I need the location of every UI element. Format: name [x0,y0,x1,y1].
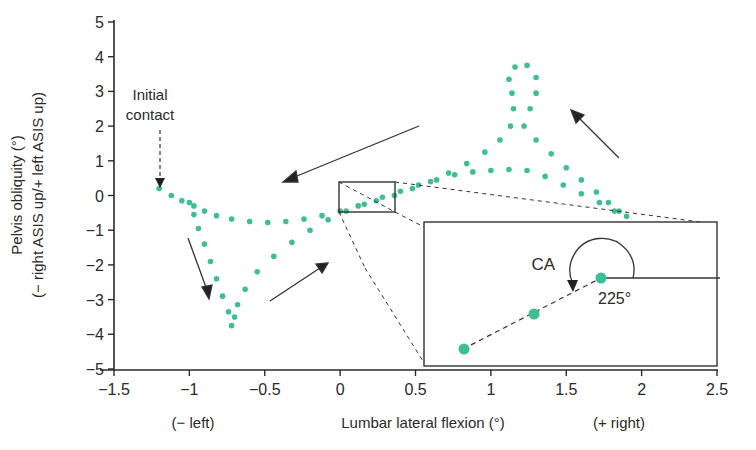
x-tick-label: −1.5 [98,381,130,398]
data-point [508,123,514,129]
x-tick-label: 1 [486,381,495,398]
x-tick-label: 1.5 [555,381,577,398]
y-tick-label: −5 [86,361,104,378]
data-point [355,203,361,209]
inset-label-ca: CA [531,255,555,274]
data-point [179,198,185,204]
data-point [470,169,476,175]
y-axis-label-line2: (− right ASIS up/+ left ASIS up) [29,92,46,298]
arrowhead-icon [283,171,298,182]
data-point [307,227,313,233]
data-point [232,314,238,320]
data-point [410,186,416,192]
data-point [361,201,367,207]
data-point [488,168,494,174]
data-point [594,189,600,195]
data-point [506,167,512,173]
data-point [548,151,554,157]
data-point [612,208,618,214]
x-tick-label: 0 [336,381,345,398]
data-point [343,208,349,214]
data-point [509,90,515,96]
arrowhead-icon [202,285,212,299]
y-tick-label: −2 [86,257,104,274]
data-point [319,213,325,219]
data-point [229,216,235,222]
data-point [202,208,208,214]
data-point [533,90,539,96]
x-tick-label: −1 [180,381,198,398]
chart-canvas: 543210−1−2−3−4−5 −1.5−1−0.500.511.522.5 … [0,0,756,450]
data-point [242,286,248,292]
annotation-initial-line1: Initial [132,86,167,103]
x-axis-label: Lumbar lateral flexion (°) [341,414,505,431]
data-point [560,182,566,188]
data-point [283,219,289,225]
data-point [191,203,197,209]
data-point [202,241,208,247]
data-point [524,168,530,174]
data-point [579,177,585,183]
arrowhead-icon [316,263,328,273]
data-point [214,213,220,219]
data-point [446,170,452,176]
inset-point [529,309,540,320]
inset-panel: CA 225° [424,222,720,366]
data-point [337,208,343,214]
inset-point [459,344,470,355]
y-tick-label: 0 [95,188,104,205]
x-axis-label-left: (− left) [172,414,215,431]
annotation-initial-line2: contact [126,106,175,123]
y-tick-label: 5 [95,14,104,31]
data-point [434,177,440,183]
data-point [533,137,539,143]
data-point [521,123,527,129]
data-point [428,179,434,185]
data-point [380,194,386,200]
data-point [265,220,271,226]
x-ticks: −1.5−1−0.500.511.522.5 [98,370,728,398]
data-point [542,174,548,180]
data-point [398,189,404,195]
y-tick-label: 1 [95,153,104,170]
inset-angle-label: 225° [598,290,631,307]
x-tick-label: −0.5 [249,381,281,398]
data-point [452,172,458,178]
data-point [527,106,533,112]
data-point [511,106,517,112]
data-point [254,269,260,275]
data-point [208,259,214,265]
x-axis-label-right: (+ right) [593,414,645,431]
data-point [156,186,162,192]
y-tick-label: 3 [95,83,104,100]
data-point [563,165,569,171]
data-point [533,75,539,81]
data-point [606,200,612,206]
data-point [168,193,174,199]
data-point [497,137,503,143]
data-point [196,226,202,232]
data-point [464,161,470,167]
x-tick-label: 2.5 [706,381,728,398]
data-point [374,198,380,204]
data-point [482,149,488,155]
x-tick-label: 2 [637,381,646,398]
data-point [512,64,518,70]
data-point [247,219,253,225]
data-point [624,214,630,220]
data-point [579,191,585,197]
data-point [214,276,220,282]
y-axis-label-line1: Pelvis obliquity (°) [8,135,25,254]
arrowhead-icon [155,178,165,188]
data-point [289,240,295,246]
x-tick-label: 0.5 [404,381,426,398]
data-point [191,212,197,218]
data-point [226,309,232,315]
y-ticks: 543210−1−2−3−4−5 [86,14,114,378]
y-tick-label: 4 [95,49,104,66]
y-tick-label: −4 [86,326,104,343]
data-point [524,63,530,69]
data-point [229,323,235,329]
data-point [220,293,226,299]
y-tick-label: −1 [86,222,104,239]
